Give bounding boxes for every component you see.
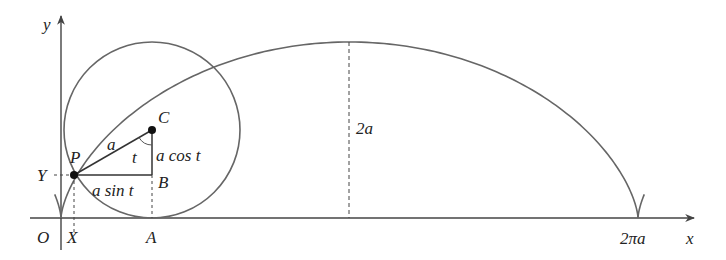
label-X: X — [66, 228, 78, 247]
label-A: A — [145, 228, 157, 247]
label-P: P — [69, 148, 80, 167]
point-P — [70, 171, 78, 179]
cycloid-left-branch — [55, 194, 61, 218]
label-a-cos-t: a cos t — [156, 146, 202, 165]
label-angle-t: t — [132, 148, 138, 167]
label-2pi-a: 2πa — [620, 229, 646, 248]
cycloid-diagram: y x O X A Y P C B a t a cos t a sin t 2a… — [0, 0, 726, 260]
label-radius-a: a — [107, 135, 116, 154]
y-axis-label: y — [41, 15, 51, 34]
label-a-sin-t: a sin t — [92, 181, 135, 200]
label-B: B — [158, 173, 169, 192]
label-C: C — [158, 108, 170, 127]
label-2a: 2a — [356, 119, 373, 138]
point-C — [148, 126, 156, 134]
angle-arc-t — [139, 138, 152, 146]
label-Y: Y — [37, 166, 48, 185]
origin-label: O — [37, 228, 49, 247]
x-axis-label: x — [685, 229, 694, 248]
cycloid-right-branch — [638, 194, 644, 218]
